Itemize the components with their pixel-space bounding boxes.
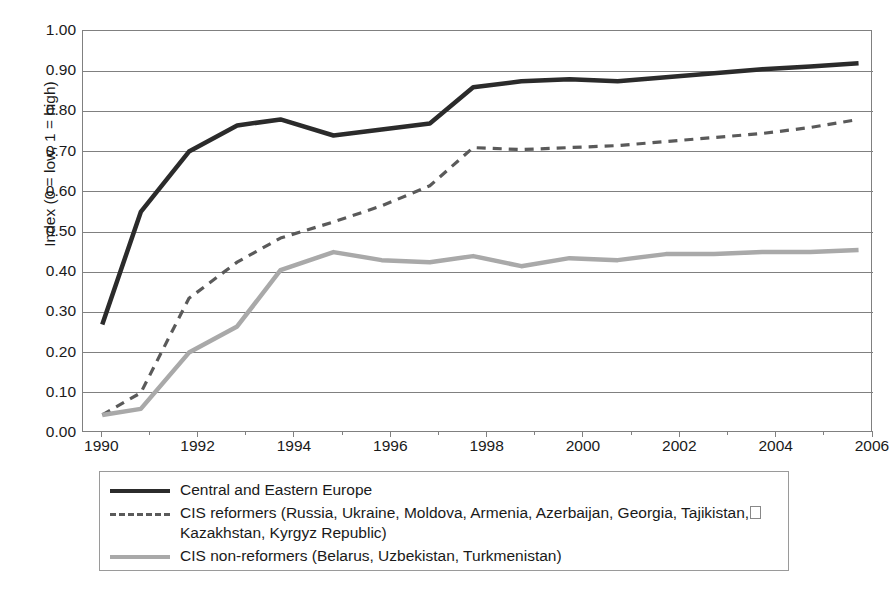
x-tick-label: 2000 <box>543 437 623 454</box>
x-tick-label: 2006 <box>832 437 894 454</box>
series-line-central-and-eastern-europe <box>102 63 858 324</box>
chart-legend: Central and Eastern Europe CIS reformers… <box>99 471 789 571</box>
legend-item-cis-reformers: CIS reformers (Russia, Ukraine, Moldova,… <box>100 501 788 543</box>
x-tick-label: 1990 <box>61 437 141 454</box>
legend-label-cis-reformers: CIS reformers (Russia, Ukraine, Moldova,… <box>180 501 761 543</box>
y-tick-label: 0.80 <box>22 102 76 118</box>
legend-swatch-solid-gray-icon <box>108 548 172 565</box>
legend-label-cis-reformers-line2: Kazakhstan, Kyrgyz Republic) <box>180 524 387 541</box>
legend-label-central-eastern-europe: Central and Eastern Europe <box>180 478 372 500</box>
series-line-cis-reformers <box>102 119 858 414</box>
y-tick-label: 0.60 <box>22 183 76 199</box>
legend-label-cis-non-reformers: CIS non-reformers (Belarus, Uzbekistan, … <box>180 544 562 566</box>
y-axis-tick-labels: 0.000.100.200.300.400.500.600.700.800.90… <box>20 0 76 593</box>
y-tick-label: 0.40 <box>22 263 76 279</box>
plot-area <box>82 30 872 432</box>
legend-item-central-eastern-europe: Central and Eastern Europe <box>100 478 788 500</box>
x-tick-label: 1994 <box>254 437 334 454</box>
y-tick-label: 0.10 <box>22 384 76 400</box>
y-tick-label: 1.00 <box>22 22 76 38</box>
x-tick-label: 1992 <box>158 437 238 454</box>
y-tick-label: 0.70 <box>22 143 76 159</box>
legend-swatch-dashed-icon <box>108 505 172 522</box>
x-tick-label: 2002 <box>639 437 719 454</box>
x-tick-label: 1998 <box>447 437 527 454</box>
linebreak-box-glyph-icon <box>750 506 761 519</box>
x-tick-label: 1996 <box>350 437 430 454</box>
plot-canvas <box>83 31 873 433</box>
y-tick-label: 0.50 <box>22 223 76 239</box>
data-series-layer <box>102 63 858 415</box>
y-tick-label: 0.20 <box>22 344 76 360</box>
series-line-cis-non-reformers <box>102 250 858 415</box>
y-tick-label: 0.30 <box>22 303 76 319</box>
legend-swatch-solid-dark-icon <box>108 482 172 499</box>
legend-item-cis-non-reformers: CIS non-reformers (Belarus, Uzbekistan, … <box>100 544 788 566</box>
legend-label-cis-reformers-line1: CIS reformers (Russia, Ukraine, Moldova,… <box>180 504 749 521</box>
x-tick-label: 2004 <box>736 437 816 454</box>
y-tick-label: 0.90 <box>22 62 76 78</box>
